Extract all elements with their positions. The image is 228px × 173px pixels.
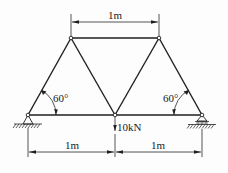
node-top-right (157, 36, 161, 40)
right-angle-marker: 60° (163, 90, 189, 115)
truss-diagram: 1m 60° 60° (0, 0, 228, 173)
point-load: 10kN (113, 117, 141, 133)
arrowhead-icon (29, 150, 36, 154)
arrowhead-icon (116, 150, 123, 154)
load-label: 10kN (117, 121, 142, 133)
node-right-support (200, 113, 204, 117)
truss-nodes (26, 36, 204, 117)
roller-icon (201, 122, 203, 124)
top-dimension: 1m (71, 9, 159, 36)
roller-icon (205, 122, 207, 124)
arrowhead-icon (151, 20, 158, 24)
left-diagonal-inner (71, 38, 115, 115)
arrowhead-icon (184, 90, 190, 95)
arrowhead-icon (194, 150, 201, 154)
right-diagonal-inner (115, 38, 159, 115)
node-bottom-center (113, 113, 117, 117)
arrowhead-icon (54, 109, 58, 115)
arrowhead-icon (172, 109, 176, 115)
node-top-left (69, 36, 73, 40)
bottom-dimensions: 1m 1m (28, 128, 202, 157)
left-angle-marker: 60° (41, 90, 68, 115)
left-angle-label: 60° (53, 92, 68, 104)
node-left-support (26, 113, 30, 117)
arrowhead-icon (72, 20, 79, 24)
bottom-left-dimension-label: 1m (65, 139, 80, 151)
ground-hatch-icon (187, 125, 214, 129)
arrowhead-icon (107, 150, 114, 154)
roller-icon (197, 122, 199, 124)
ground-hatch-icon (13, 124, 40, 128)
arrowhead-icon (41, 90, 47, 95)
right-angle-label: 60° (163, 92, 178, 104)
bottom-right-dimension-label: 1m (151, 139, 166, 151)
top-dimension-label: 1m (108, 9, 123, 21)
truss-canvas: 1m 60° 60° (0, 0, 228, 173)
